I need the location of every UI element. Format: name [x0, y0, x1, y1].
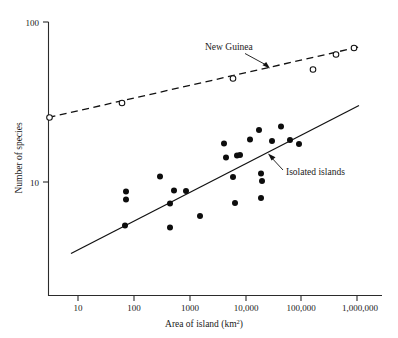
- data-point-filled: [221, 141, 227, 147]
- new-guinea-trend-line: [49, 47, 362, 118]
- data-point-open: [351, 45, 357, 51]
- axis-frame: [49, 22, 383, 296]
- chart-canvas: 100 10 10 100 1000 10,000 100,000 1,000,…: [0, 0, 398, 338]
- data-point-filled: [287, 137, 293, 143]
- data-point-filled: [232, 200, 238, 206]
- data-point-open: [310, 67, 316, 73]
- y-tick-label-100: 100: [26, 18, 40, 28]
- data-point-filled: [197, 213, 203, 219]
- data-point-open: [47, 115, 53, 121]
- data-point-filled: [230, 174, 236, 180]
- data-point-filled: [123, 189, 129, 195]
- data-point-filled: [256, 127, 262, 133]
- y-axis-title: Number of species: [14, 122, 24, 194]
- species-area-chart: 100 10 10 100 1000 10,000 100,000 1,000,…: [0, 0, 398, 338]
- trend-lines: [49, 47, 362, 254]
- isolated-islands-label: Isolated islands: [286, 167, 345, 177]
- x-tick-label-10: 10: [74, 303, 84, 313]
- isolated-islands-points: [122, 124, 302, 231]
- new-guinea-points: [47, 45, 357, 120]
- new-guinea-label: New Guinea: [205, 42, 254, 52]
- data-point-filled: [278, 124, 284, 130]
- data-point-open: [333, 52, 339, 58]
- data-point-filled: [122, 223, 128, 229]
- x-axis-title: Area of island (km2): [165, 318, 243, 330]
- y-tick-label-10: 10: [30, 178, 40, 188]
- data-point-filled: [167, 201, 173, 207]
- data-point-filled: [123, 197, 129, 203]
- x-axis-title-main: Area of island (km: [165, 319, 237, 330]
- x-axis-title-suffix: ): [240, 319, 243, 330]
- data-point-filled: [247, 137, 253, 143]
- y-axis-ticks: 100 10: [26, 18, 49, 188]
- data-point-filled: [237, 152, 243, 158]
- data-point-filled: [259, 178, 265, 184]
- data-point-open: [230, 76, 236, 82]
- x-tick-label-100: 100: [127, 303, 141, 313]
- isolated-islands-trend-line: [71, 106, 359, 254]
- new-guinea-annotation: New Guinea: [205, 42, 270, 69]
- data-point-filled: [258, 195, 264, 201]
- x-tick-label-10000: 10,000: [234, 303, 259, 313]
- data-point-filled: [269, 138, 275, 144]
- isolated-islands-annotation: Isolated islands: [268, 154, 345, 178]
- data-point-filled: [167, 225, 173, 231]
- isolated-islands-arrowhead: [268, 154, 276, 161]
- x-axis-ticks: 10 100 1000 10,000 100,000 1,000,000: [74, 296, 379, 314]
- axis-lines: [49, 22, 383, 296]
- data-point-filled: [157, 174, 163, 180]
- x-tick-label-1000: 1000: [181, 303, 200, 313]
- x-tick-label-1000000: 1,000,000: [342, 303, 379, 313]
- data-point-open: [119, 100, 125, 106]
- x-tick-label-100000: 100,000: [286, 303, 316, 313]
- data-point-filled: [296, 141, 302, 147]
- data-point-filled: [258, 171, 264, 177]
- data-point-filled: [223, 155, 229, 161]
- data-point-filled: [171, 188, 177, 194]
- data-point-filled: [183, 188, 189, 194]
